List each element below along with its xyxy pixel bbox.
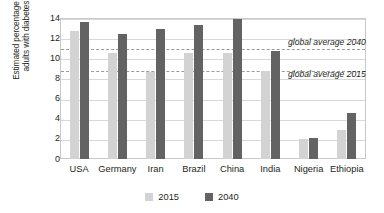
legend-item-2015[interactable]: 2015 bbox=[145, 192, 179, 202]
reference-line-label: global average 2015 bbox=[288, 69, 366, 79]
bar-group bbox=[137, 18, 175, 159]
x-axis-tick-label: Germany bbox=[98, 164, 136, 175]
bar-germany-2040 bbox=[118, 34, 127, 159]
bar-group bbox=[60, 18, 98, 159]
legend-label: 2040 bbox=[218, 192, 239, 202]
x-axis-tick-label: Brazil bbox=[175, 164, 213, 175]
y-axis-tick-label: 6 bbox=[36, 94, 60, 103]
y-axis-tick-label: 10 bbox=[36, 54, 60, 63]
bar-ethiopia-2015 bbox=[337, 130, 346, 159]
y-axis-tick-label: 8 bbox=[36, 74, 60, 83]
y-axis-tick-label: 14 bbox=[36, 14, 60, 23]
diabetes-bar-chart: Estimated percentage of adults with diab… bbox=[0, 0, 384, 213]
bar-group bbox=[98, 18, 136, 159]
bar-iran-2015 bbox=[146, 72, 155, 159]
legend-item-2040[interactable]: 2040 bbox=[205, 192, 239, 202]
bar-india-2040 bbox=[271, 51, 280, 159]
bar-ethiopia-2040 bbox=[347, 113, 356, 159]
x-axis-tick-label: India bbox=[251, 164, 289, 175]
bar-germany-2015 bbox=[108, 53, 117, 159]
bar-nigeria-2040 bbox=[309, 138, 318, 159]
x-axis-tick-label: Iran bbox=[137, 164, 175, 175]
bar-brazil-2040 bbox=[194, 25, 203, 159]
y-axis-tick-label: 12 bbox=[36, 34, 60, 43]
legend-label: 2015 bbox=[158, 192, 179, 202]
chart-legend: 20152040 bbox=[0, 192, 384, 202]
bar-china-2040 bbox=[233, 19, 242, 159]
x-axis-tick-label: Nigeria bbox=[290, 164, 328, 175]
legend-swatch-icon bbox=[205, 193, 213, 201]
legend-swatch-icon bbox=[145, 193, 153, 201]
bar-china-2015 bbox=[223, 53, 232, 159]
bar-group bbox=[213, 18, 251, 159]
y-axis-tick-label: 4 bbox=[36, 114, 60, 123]
reference-line-label: global average 2040 bbox=[288, 37, 366, 47]
y-axis-title: Estimated percentage of adults with diab… bbox=[5, 0, 37, 111]
y-axis-tick-label: 0 bbox=[36, 155, 60, 164]
bar-group bbox=[251, 18, 289, 159]
bar-group bbox=[175, 18, 213, 159]
x-axis-tick-label: China bbox=[213, 164, 251, 175]
bar-brazil-2015 bbox=[184, 53, 193, 159]
bar-iran-2040 bbox=[156, 29, 165, 159]
y-axis-tick-label: 2 bbox=[36, 134, 60, 143]
bar-usa-2040 bbox=[80, 22, 89, 159]
y-axis-title-line-2: adults with diabetes bbox=[21, 0, 31, 80]
x-axis-tick-label: USA bbox=[60, 164, 98, 175]
bar-usa-2015 bbox=[70, 31, 79, 159]
bar-india-2015 bbox=[261, 71, 270, 159]
bar-nigeria-2015 bbox=[299, 139, 308, 159]
x-axis-tick-label: Ethiopia bbox=[328, 164, 366, 175]
y-axis-title-line-1: Estimated percentage of bbox=[11, 0, 21, 80]
